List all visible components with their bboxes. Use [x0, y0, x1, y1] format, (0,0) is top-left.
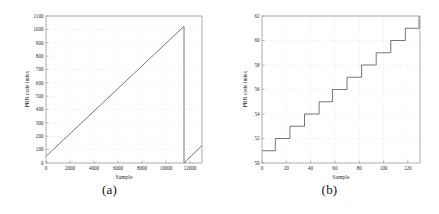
- ytick-label: 900: [36, 40, 44, 46]
- xticks-b: [262, 161, 408, 164]
- ytick-label: 58: [254, 62, 260, 68]
- ytick-label: 300: [36, 120, 44, 126]
- ytick-label: 400: [36, 106, 44, 112]
- series-prn-code-index-a: [46, 26, 202, 163]
- ytick-label: 52: [254, 135, 260, 141]
- xtick-label: 40: [308, 165, 314, 171]
- x-axis-title: Sample: [116, 174, 133, 180]
- ytick-label: 100: [36, 146, 44, 152]
- xtick-label: 8000: [137, 165, 148, 171]
- subfigure-caption-a: (a): [0, 182, 219, 198]
- yticks-b: [262, 16, 265, 163]
- ytick-label: 1000: [33, 26, 44, 32]
- xticklabels-b: 0 20 40 60 80 100 120: [261, 165, 412, 171]
- ytick-label: 200: [36, 133, 44, 139]
- y-axis-title: PRN code index: [242, 70, 248, 107]
- xtick-label: 80: [357, 165, 363, 171]
- yticks-a: [46, 16, 49, 163]
- xticklabels-a: 0 2000 4000 6000 8000 10000 12000: [45, 165, 197, 171]
- xtick-label: 120: [404, 165, 412, 171]
- ytick-label: 700: [36, 66, 44, 72]
- chart-b: 0 20 40 60 80 100 120 50 52 54 56 58 60 …: [220, 0, 439, 190]
- panel-b: 0 20 40 60 80 100 120 50 52 54 56 58 60 …: [220, 0, 439, 214]
- ytick-label: 56: [254, 86, 260, 92]
- panel-a: 0 2000 4000 6000 8000 10000 12000 0 100 …: [0, 0, 219, 214]
- xtick-label: 0: [45, 165, 48, 171]
- ytick-label: 0: [41, 160, 44, 166]
- figure-container: 0 2000 4000 6000 8000 10000 12000 0 100 …: [0, 0, 439, 214]
- ytick-label: 54: [254, 111, 260, 117]
- chart-a: 0 2000 4000 6000 8000 10000 12000 0 100 …: [0, 0, 219, 190]
- axis-box-a: [46, 16, 202, 163]
- ytick-label: 500: [36, 93, 44, 99]
- ytick-label: 600: [36, 80, 44, 86]
- xtick-label: 2000: [65, 165, 76, 171]
- ytick-label: 1100: [34, 13, 44, 19]
- yticklabels-a: 0 100 200 300 400 500 600 700 800 900 10…: [33, 13, 44, 166]
- y-axis-title: PRN code index: [24, 70, 30, 107]
- xtick-label: 60: [332, 165, 338, 171]
- xtick-label: 20: [284, 165, 290, 171]
- xtick-label: 6000: [113, 165, 124, 171]
- subfigure-caption-b: (b): [220, 182, 439, 198]
- ytick-label: 50: [254, 160, 260, 166]
- series-prn-code-index-b: [262, 16, 419, 151]
- ytick-label: 62: [254, 13, 260, 19]
- xtick-label: 4000: [89, 165, 100, 171]
- xtick-label: 12000: [184, 165, 197, 171]
- xtick-label: 10000: [160, 165, 173, 171]
- ytick-label: 60: [254, 37, 260, 43]
- grid-a: [46, 16, 202, 163]
- yticklabels-b: 50 52 54 56 58 60 62: [254, 13, 260, 166]
- xtick-label: 100: [380, 165, 388, 171]
- ytick-label: 800: [36, 53, 44, 59]
- x-axis-title: Sample: [333, 174, 350, 180]
- xticks-a: [46, 161, 190, 164]
- xtick-label: 0: [261, 165, 264, 171]
